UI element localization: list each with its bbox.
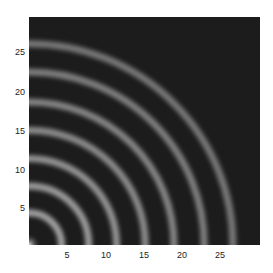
x-tick-10: 10 — [96, 250, 116, 260]
x-tick-5: 5 — [57, 250, 77, 260]
ring — [29, 72, 204, 245]
y-tick-15: 15 — [3, 126, 25, 136]
y-tick-25: 25 — [3, 47, 25, 57]
center-spot — [29, 233, 41, 245]
y-tick-20: 20 — [3, 87, 25, 97]
x-tick-20: 20 — [172, 250, 192, 260]
ring-pattern — [29, 17, 260, 245]
x-tick-25: 25 — [210, 250, 230, 260]
y-tick-10: 10 — [3, 165, 25, 175]
x-tick-15: 15 — [134, 250, 154, 260]
y-tick-5: 5 — [3, 203, 25, 213]
heatmap-plot-area — [29, 17, 260, 245]
